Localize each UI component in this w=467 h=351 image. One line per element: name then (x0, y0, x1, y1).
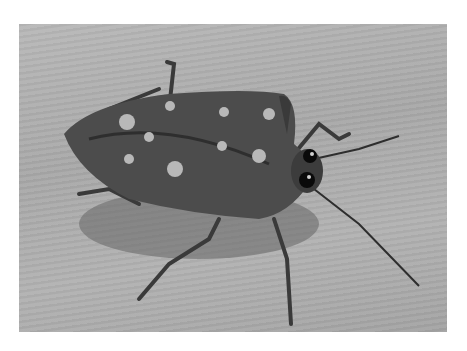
bug-photo (19, 24, 447, 332)
bug-antennae (314, 136, 419, 286)
bug-body (64, 91, 312, 219)
bug-eye-upper (303, 149, 317, 163)
bug-eye-lower (299, 172, 315, 188)
bug-illustration (19, 24, 447, 332)
